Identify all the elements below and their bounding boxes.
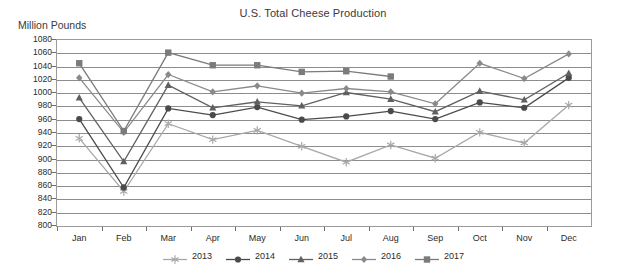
data-point <box>343 158 350 166</box>
y-axis-tick-label: 800 <box>18 221 52 229</box>
x-axis-tick-label: Dec <box>561 233 577 243</box>
data-point <box>387 141 394 149</box>
x-axis-tick <box>146 227 147 231</box>
data-point <box>343 113 349 119</box>
y-axis-tick-label: 860 <box>18 181 52 189</box>
data-point <box>432 116 438 122</box>
chart-title: U.S. Total Cheese Production <box>0 7 626 19</box>
x-axis-tick <box>547 227 548 231</box>
legend-item-2016[interactable]: 2016 <box>351 251 401 262</box>
data-point <box>121 128 127 134</box>
data-point <box>165 81 172 88</box>
y-axis-tick-label: 1080 <box>18 35 52 43</box>
x-axis-tick <box>413 227 414 231</box>
legend-label: 2013 <box>192 251 212 261</box>
x-axis-tick <box>191 227 192 231</box>
y-axis-tick-label: 1020 <box>18 75 52 83</box>
legend-marker-square-icon <box>414 251 440 262</box>
legend-label: 2016 <box>381 251 401 261</box>
y-axis-tick-label: 1000 <box>18 88 52 96</box>
x-axis-tick <box>502 227 503 231</box>
y-axis-tick-label: 900 <box>18 155 52 163</box>
x-axis-tick <box>324 227 325 231</box>
data-point <box>76 94 83 101</box>
y-axis-tick-label: 1060 <box>18 48 52 56</box>
data-point <box>210 88 216 95</box>
data-point <box>477 99 483 105</box>
data-point <box>343 68 349 74</box>
chart-container: U.S. Total Cheese Production Million Pou… <box>0 0 626 270</box>
x-axis-tick-label: Oct <box>473 233 487 243</box>
data-point <box>388 73 394 79</box>
data-point <box>299 90 305 97</box>
legend-label: 2015 <box>318 251 338 261</box>
x-axis-tick-label: Feb <box>116 233 132 243</box>
y-axis-tick-label: 840 <box>18 194 52 202</box>
data-point <box>76 116 82 122</box>
y-axis-title: Million Pounds <box>18 19 86 31</box>
y-axis-tick-label: 880 <box>18 168 52 176</box>
data-point <box>165 105 171 111</box>
legend-marker-triangle-icon <box>288 251 314 262</box>
data-point <box>76 60 82 66</box>
y-axis-tick-label: 820 <box>18 208 52 216</box>
chart-legend: 20132014201520162017 <box>0 248 626 264</box>
data-point <box>254 82 260 89</box>
series-layer <box>57 40 591 226</box>
data-point <box>299 117 305 123</box>
y-axis-tick-labels: 8008208408608809009209409609801000102010… <box>14 39 52 227</box>
data-point <box>254 104 260 110</box>
x-axis-tick-label: May <box>249 233 266 243</box>
x-axis-tick-labels: JanFebMarAprMayJunJulAugSepOctNovDec <box>56 233 592 247</box>
x-axis-tick-label: Apr <box>206 233 220 243</box>
data-point <box>343 85 349 92</box>
x-axis-tick <box>57 227 58 231</box>
series-2016 <box>76 50 572 136</box>
x-axis-tick-label: Jun <box>294 233 309 243</box>
legend-marker-star-icon <box>162 251 188 262</box>
y-axis-tick-label: 940 <box>18 128 52 136</box>
x-axis-tick-label: Sep <box>427 233 443 243</box>
x-axis-tick <box>369 227 370 231</box>
legend-item-2013[interactable]: 2013 <box>162 251 212 262</box>
data-point <box>565 69 572 76</box>
data-point <box>388 108 394 114</box>
y-axis-tick-label: 1040 <box>18 62 52 70</box>
legend-label: 2014 <box>255 251 275 261</box>
plot-area <box>56 39 592 227</box>
data-point <box>432 154 439 162</box>
y-axis-tick-label: 980 <box>18 101 52 109</box>
data-point <box>210 62 216 68</box>
x-axis-tick <box>235 227 236 231</box>
legend-item-2017[interactable]: 2017 <box>414 251 464 262</box>
data-point <box>254 98 261 105</box>
x-axis-tick-label: Nov <box>516 233 532 243</box>
data-point <box>299 69 305 75</box>
x-axis-tick <box>280 227 281 231</box>
x-axis-tick <box>458 227 459 231</box>
data-point <box>476 87 483 94</box>
data-point <box>521 105 527 111</box>
x-axis-tick-label: Jul <box>340 233 352 243</box>
data-point <box>298 142 305 150</box>
series-line <box>79 54 569 132</box>
legend-item-2014[interactable]: 2014 <box>225 251 275 262</box>
data-point <box>388 88 394 95</box>
data-point <box>210 112 216 118</box>
data-point <box>165 49 171 55</box>
legend-marker-circle-icon <box>225 251 251 262</box>
legend-item-2015[interactable]: 2015 <box>288 251 338 262</box>
data-point <box>521 75 527 82</box>
x-axis-tick-label: Jan <box>72 233 87 243</box>
x-axis-tick-label: Mar <box>161 233 177 243</box>
series-2014 <box>76 75 572 191</box>
series-line <box>79 53 391 131</box>
x-axis-tick-label: Aug <box>383 233 399 243</box>
y-axis-tick-label: 920 <box>18 141 52 149</box>
data-point <box>121 184 127 190</box>
y-axis-tick-label: 960 <box>18 115 52 123</box>
x-axis-tick <box>102 227 103 231</box>
data-point <box>566 50 572 57</box>
x-axis-ticks <box>56 227 592 232</box>
data-point <box>254 62 260 68</box>
